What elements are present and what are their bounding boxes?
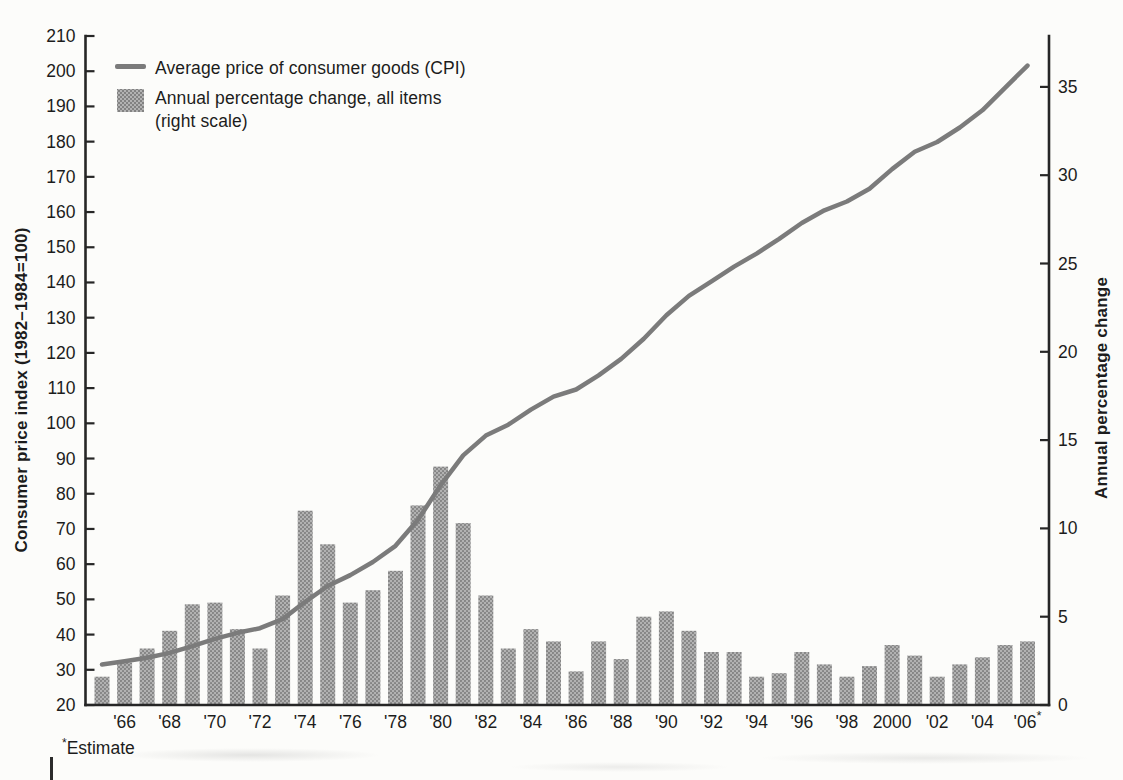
pct-change-bar-1982 [478, 596, 493, 706]
pct-change-bar-1965 [95, 677, 110, 705]
pct-change-bar-2002 [930, 677, 945, 705]
pct-bar-legend-label: Annual percentage change, all items (rig… [155, 87, 442, 133]
cpi-line-swatch [115, 64, 146, 69]
legend-row-cpi-line: Average price of consumer goods (CPI) [113, 57, 466, 80]
pct-change-bar-1970 [207, 603, 222, 705]
pct-change-bar-1986 [569, 671, 584, 705]
left-axis-tick-label: 110 [48, 378, 76, 398]
x-axis-tick-label: '86 [565, 712, 588, 732]
left-axis-tick-label: 120 [46, 343, 75, 363]
pct-change-bar-1991 [681, 631, 696, 705]
pct-change-bar-1981 [456, 523, 471, 705]
x-axis-tick-label: '92 [700, 712, 723, 732]
pct-change-bar-1989 [636, 617, 651, 705]
left-axis-tick-label: 20 [56, 695, 76, 715]
pct-change-bar-1984 [523, 629, 538, 705]
pct-change-bar-1969 [185, 604, 200, 705]
x-axis-tick-label: '90 [655, 712, 678, 732]
pct-change-bar-1976 [343, 603, 358, 705]
x-axis-tick-label: '78 [384, 712, 407, 732]
x-axis-tick-label: '74 [294, 712, 317, 732]
left-axis-tick-label: 30 [56, 660, 76, 680]
pct-change-bar-1985 [546, 641, 561, 705]
x-axis-tick-label: '06* [1014, 708, 1042, 732]
left-axis-tick-label: 60 [56, 554, 76, 574]
left-axis-tick-label: 80 [56, 484, 76, 504]
x-axis-tick-label: '84 [519, 712, 542, 732]
x-axis-tick-label: '88 [610, 712, 633, 732]
pct-change-bar-1975 [320, 544, 335, 705]
right-axis-tick-label: 0 [1058, 695, 1068, 715]
pct-change-bar-1997 [817, 664, 832, 705]
chart-page: 2030405060708090100110120130140150160170… [0, 0, 1123, 780]
x-axis-tick-label: '94 [745, 712, 768, 732]
right-axis-tick-label: 30 [1058, 165, 1078, 185]
page-edge-mark [50, 757, 53, 780]
left-axis-tick-label: 170 [46, 167, 75, 187]
x-axis-tick-label: '68 [158, 712, 181, 732]
x-axis-tick-label: '70 [203, 712, 226, 732]
pct-change-bar-2000 [885, 645, 900, 705]
pct-change-bar-1971 [230, 629, 245, 705]
pct-change-bar-1966 [117, 663, 132, 705]
pct-change-bar-1992 [704, 652, 719, 705]
left-axis-tick-label: 160 [46, 202, 75, 222]
right-axis-tick-label: 5 [1058, 607, 1068, 627]
left-axis-title: Consumer price index (1982–1984=100) [12, 227, 32, 552]
estimate-note: *Estimate [62, 736, 135, 759]
pct-change-bar-2005 [998, 645, 1013, 705]
left-axis-tick-label: 50 [56, 589, 76, 609]
legend: Average price of consumer goods (CPI) An… [113, 57, 466, 140]
left-axis-tick-label: 150 [46, 237, 75, 257]
left-axis-tick-label: 140 [46, 272, 75, 292]
pct-change-bar-1998 [839, 677, 854, 705]
x-axis-tick-label: '80 [429, 712, 452, 732]
pct-change-bar-1978 [388, 571, 403, 705]
cpi-line [102, 66, 1028, 665]
left-axis-tick-label: 180 [46, 132, 75, 152]
x-axis-tick-label: '02 [926, 712, 949, 732]
pct-change-bar-1993 [727, 652, 742, 705]
pct-bar-swatch [117, 89, 144, 112]
right-axis-tick-label: 25 [1058, 254, 1077, 274]
right-axis-tick-label: 10 [1058, 518, 1078, 538]
x-axis-tick-label: '76 [339, 712, 362, 732]
pct-change-bar-1994 [749, 677, 764, 705]
x-axis-tick-label: '82 [474, 712, 497, 732]
pct-change-bar-2006 [1020, 641, 1035, 705]
pct-change-bar-2003 [952, 664, 967, 705]
left-axis-tick-label: 70 [56, 519, 76, 539]
pct-change-bar-1977 [365, 590, 380, 705]
x-axis-tick-label: '96 [790, 712, 813, 732]
right-axis-tick-label: 35 [1058, 77, 1077, 97]
pct-change-bar-1979 [411, 505, 426, 705]
right-axis-title: Annual percentage change [1092, 277, 1112, 499]
left-axis-tick-label: 90 [56, 449, 76, 469]
x-axis-tick-label: '72 [249, 712, 272, 732]
pct-change-bar-1968 [162, 631, 177, 705]
pct-change-bar-1980 [433, 467, 448, 705]
pct-change-bar-2001 [907, 656, 922, 705]
cpi-line-legend-label: Average price of consumer goods (CPI) [155, 57, 466, 80]
left-axis-tick-label: 200 [46, 61, 75, 81]
right-axis-tick-label: 15 [1058, 430, 1077, 450]
left-axis-tick-label: 40 [56, 625, 76, 645]
x-axis-tick-label: '98 [835, 712, 858, 732]
pct-change-bar-1995 [772, 673, 787, 705]
pct-change-bar-1990 [659, 611, 674, 705]
left-axis-tick-label: 190 [46, 96, 75, 116]
x-axis-tick-label: 2000 [873, 712, 912, 732]
x-axis-tick-label: '04 [971, 712, 994, 732]
pct-change-bar-1972 [253, 649, 268, 706]
pct-change-bar-1973 [275, 596, 290, 706]
pct-change-bar-1999 [862, 666, 877, 705]
legend-row-pct-bars: Annual percentage change, all items (rig… [113, 87, 466, 133]
pct-change-bar-1988 [614, 659, 629, 705]
bars-group [95, 467, 1036, 705]
pct-change-bar-1996 [794, 652, 809, 705]
pct-change-bar-1987 [591, 641, 606, 705]
estimate-text: Estimate [67, 738, 135, 758]
cpi-line-group [102, 66, 1028, 665]
x-axis-tick-label: '66 [113, 712, 136, 732]
pct-change-bar-2004 [975, 657, 990, 705]
